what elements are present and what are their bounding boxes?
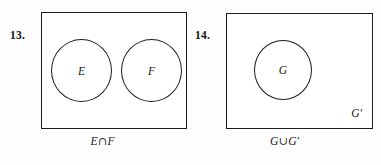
caption-13: E∩F <box>7 135 198 148</box>
exercise-14: 14. G G′ G∪G′ <box>190 0 381 165</box>
caption-13-operator-intersection: ∩ <box>98 135 108 148</box>
problem-number-13: 13. <box>10 29 25 41</box>
caption-14-right-operand: G′ <box>288 135 299 147</box>
universe-rectangle-13: E F <box>41 12 187 129</box>
set-circle-g: G <box>254 40 312 100</box>
set-label-e: E <box>78 65 85 77</box>
exercise-13: 13. E F E∩F <box>0 0 191 165</box>
set-label-g-complement: G′ <box>351 107 362 119</box>
caption-14-operator-union: ∪ <box>278 135 288 148</box>
set-label-f: F <box>148 65 155 77</box>
universe-rectangle-14: G G′ <box>226 13 373 129</box>
caption-13-right-operand: F <box>107 135 114 147</box>
caption-13-left-operand: E <box>91 135 98 147</box>
caption-14: G∪G′ <box>189 135 380 148</box>
set-label-g: G <box>279 64 287 76</box>
figure-page: 13. E F E∩F 14. G G′ G∪G′ <box>0 0 381 165</box>
problem-number-14: 14. <box>195 29 210 41</box>
set-circle-e: E <box>51 39 112 102</box>
set-circle-f: F <box>121 39 182 102</box>
